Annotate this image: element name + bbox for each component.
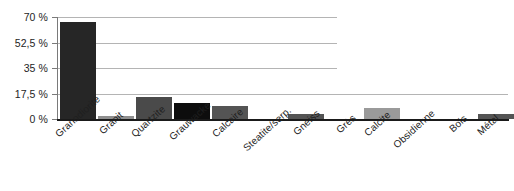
bar-slot-calcaire xyxy=(212,17,248,119)
bar-slot-steatite-serp xyxy=(250,17,286,119)
y-tick-label-17-5: 17,5 % xyxy=(15,88,48,100)
bars-group xyxy=(57,17,508,119)
y-axis-labels: 70 % 52,5 % 35 % 17,5 % 0 % xyxy=(0,0,57,191)
y-tick-label-70: 70 % xyxy=(24,11,48,23)
bar-slot-obsidienne xyxy=(402,17,438,119)
bar-slot-metal xyxy=(478,17,514,119)
bar-slot-calcite xyxy=(364,17,400,119)
x-axis-labels: Granodiorite Granit Quartzite Grauwacke … xyxy=(57,121,508,191)
bar-slot-quartzite xyxy=(136,17,172,119)
y-tick-label-52-5: 52,5 % xyxy=(15,37,48,49)
bar-slot-bois xyxy=(440,17,476,119)
y-tick-label-0: 0 % xyxy=(30,113,48,125)
y-tick-label-35: 35 % xyxy=(24,62,48,74)
bar-slot-gneiss xyxy=(288,17,324,119)
bar-slot-gres xyxy=(326,17,362,119)
bar-slot-granit xyxy=(98,17,134,119)
